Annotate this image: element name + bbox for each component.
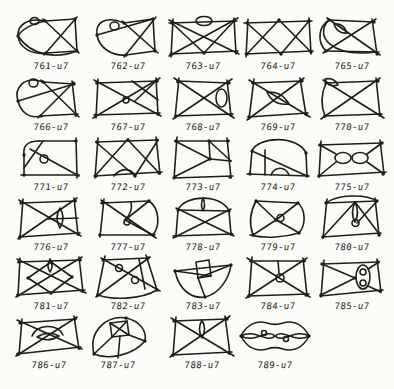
knot-stroke [103,258,148,260]
knot-stroke [303,258,307,296]
knot-figure [13,253,89,301]
knot-stroke [175,78,179,118]
vertex-dot [72,82,75,85]
vertex-dot [101,258,104,261]
knot-figure [165,13,241,61]
vertex-dot [170,52,173,55]
vertex-dot [16,293,19,296]
vertex-dot [75,173,78,176]
knot-figure [13,74,89,122]
knot-cell-785-u7: 785-u7 [314,253,390,312]
knot-stroke [48,218,78,219]
knot-stroke [174,159,210,177]
knot-stroke [250,151,252,174]
vertex-dot [323,114,326,117]
knot-stroke [319,143,382,145]
knot-stroke [320,145,336,154]
knot-stroke [357,201,377,223]
knot-stroke [276,203,298,220]
knot-cell-773-u7: 773-u7 [165,134,241,193]
knot-cell-769-u7: 769-u7 [240,74,316,133]
knot-stroke [249,257,252,297]
vertex-dot [78,258,81,261]
vertex-dot [174,234,177,237]
vertex-dot [318,143,321,146]
knot-stroke [79,257,83,292]
knot-cell-779-u7: 779-u7 [240,194,316,253]
knot-stroke [360,269,366,275]
vertex-dot [95,33,98,36]
knot-stroke [97,19,153,35]
vertex-dot [324,201,327,204]
vertex-dot [377,233,380,236]
knot-figure [314,134,390,182]
knot-stroke [249,79,254,119]
vertex-dot [378,289,381,292]
vertex-dot [304,151,307,154]
knot-stroke [322,83,326,116]
figure-label: 789-u7 [237,360,314,371]
knot-figure [165,134,241,182]
vertex-dot [375,199,378,202]
knot-stroke [112,321,127,337]
vertex-dot [94,174,97,177]
knot-stroke [18,84,74,101]
vertex-dot [274,218,277,221]
vertex-dot [247,294,250,297]
knot-figure [13,134,89,182]
knot-stroke [210,159,231,161]
knot-cell-774-u7: 774-u7 [240,134,316,193]
vertex-dot [39,114,42,117]
vertex-dot [254,199,257,202]
knot-cell-768-u7: 768-u7 [165,74,241,133]
knot-stroke [360,280,366,286]
vertex-dot [208,157,211,160]
knot-stroke [376,78,380,116]
figure-label: 782-u7 [90,301,167,312]
knot-figure [240,134,316,182]
knot-stroke [169,18,238,56]
vertex-dot [44,51,47,54]
vertex-dot [95,81,98,84]
knot-stroke [298,203,304,233]
vertex-dot [173,175,176,178]
figure-label: 772-u7 [90,182,167,193]
knot-stroke [335,153,351,164]
knot-stroke [253,220,276,235]
knot-stroke [175,114,233,116]
vertex-dot [372,20,375,23]
knot-stroke [173,317,176,356]
vertex-dot [375,52,378,55]
vertex-dot [143,339,146,342]
knot-cell-784-u7: 784-u7 [240,253,316,312]
knot-figure [314,194,390,242]
knot-figure [90,74,166,122]
vertex-dot [232,19,235,22]
vertex-dot [227,209,230,212]
knot-stroke [322,262,379,264]
knot-cell-783-u7: 783-u7 [165,253,241,312]
knot-stroke [98,290,157,298]
knot-stroke [318,172,386,176]
knot-stroke [209,141,210,159]
vertex-dot [239,334,242,337]
knot-stroke [126,51,155,55]
knot-stroke [173,79,232,119]
knot-cell-788-u7: 788-u7 [164,312,240,371]
knot-cell-767-u7: 767-u7 [90,74,166,133]
knot-stroke [306,153,307,176]
vertex-dot [251,233,254,236]
vertex-dot [245,21,248,24]
figure-label: 781-u7 [13,301,90,312]
vertex-dot [225,317,228,320]
knot-stroke [196,17,212,26]
knot-cell-765-u7: 765-u7 [314,13,390,72]
figure-label: 761-u7 [13,61,90,72]
knot-stroke [156,78,158,115]
vertex-dot [156,112,159,115]
knot-stroke [247,20,279,54]
vertex-dot [376,79,379,82]
knot-cell-778-u7: 778-u7 [165,194,241,253]
vertex-dot [320,262,323,265]
figure-label: 779-u7 [240,242,317,253]
